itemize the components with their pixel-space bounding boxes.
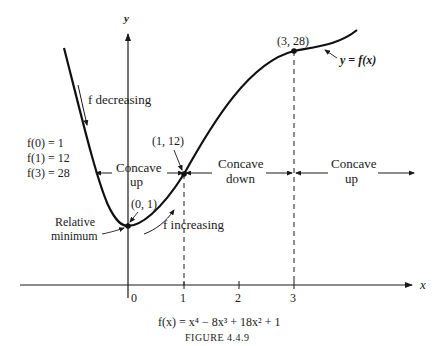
tick-label-2: 2 xyxy=(235,291,241,305)
tick-label-3: 3 xyxy=(290,291,296,305)
concave-label-3: Concave xyxy=(331,156,377,171)
point-label-0-1: (0, 1) xyxy=(131,197,157,211)
formula: f(x) = x⁴ − 8x³ + 18x² + 1 xyxy=(158,315,280,329)
function-curve xyxy=(64,30,357,226)
x-axis-label: x xyxy=(419,277,426,292)
value-f0: f(0) = 1 xyxy=(27,136,64,150)
relative-min-label-1: Relative xyxy=(55,215,95,229)
concave-label-1: Concave xyxy=(116,160,162,175)
value-f1: f(1) = 12 xyxy=(27,151,70,165)
tick-label-1: 1 xyxy=(180,291,186,305)
concave-label-2-sub: down xyxy=(226,171,255,186)
point-inflection-3 xyxy=(291,48,297,54)
decreasing-label: f decreasing xyxy=(88,92,152,107)
point-label-3-28: (3, 28) xyxy=(277,34,309,48)
relative-min-label-2: minimum xyxy=(51,229,98,243)
increasing-label: f increasing xyxy=(163,217,225,232)
tick-label-0: 0 xyxy=(131,291,137,305)
point-relative-minimum xyxy=(125,223,131,229)
concave-label-2: Concave xyxy=(218,156,264,171)
figure-canvas: x y 0 1 2 3 f decreasing f(0) = 1 f(1) =… xyxy=(0,0,445,346)
concave-label-3-sub: up xyxy=(345,171,358,186)
point-1-12-pointer xyxy=(174,150,182,170)
figure-caption: FIGURE 4.4.9 xyxy=(185,332,250,343)
curve-label-pointer xyxy=(325,50,337,58)
value-f3: f(3) = 28 xyxy=(27,166,70,180)
curve-label: y = f(x) xyxy=(338,53,376,67)
relative-min-pointer xyxy=(102,228,124,234)
point-inflection-1 xyxy=(181,171,187,177)
point-label-1-12: (1, 12) xyxy=(152,134,184,148)
point-0-1-pointer xyxy=(130,212,138,222)
concave-label-1-sub: up xyxy=(130,174,143,189)
y-axis-label: y xyxy=(122,12,129,24)
